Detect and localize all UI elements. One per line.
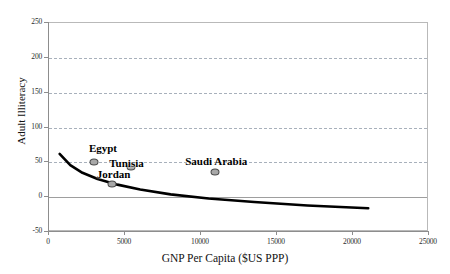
y-axis-title: Adult Illiteracy [15, 51, 27, 171]
x-tick-mark [48, 231, 49, 235]
x-tick-label-15000: 15000 [251, 238, 301, 246]
y-tick-mark [44, 92, 48, 93]
x-tick-mark [352, 231, 353, 235]
y-tick-label-200: 200 [6, 53, 42, 61]
x-tick-label-0: 0 [23, 238, 73, 246]
y-tick-mark [44, 22, 48, 23]
y-tick-label-150: 150 [6, 88, 42, 96]
y-tick-label-250: 250 [6, 18, 42, 26]
x-tick-label-25000: 25000 [403, 238, 450, 246]
y-tick-label-0: 0 [6, 192, 42, 200]
x-tick-mark [200, 231, 201, 235]
y-tick-label--50: -50 [6, 227, 42, 235]
y-tick-mark [44, 196, 48, 197]
y-axis [48, 22, 49, 231]
y-tick-mark [44, 57, 48, 58]
x-axis-title: GNP Per Capita ($US PPP) [0, 252, 450, 264]
x-tick-mark [124, 231, 125, 235]
x-tick-mark [276, 231, 277, 235]
chart-figure: Adult Illiteracy EgyptTunisiaJordanSaudi… [0, 0, 450, 274]
plot-area: EgyptTunisiaJordanSaudi Arabia [48, 22, 428, 231]
trendline [49, 23, 429, 232]
y-tick-mark [44, 127, 48, 128]
x-axis [48, 231, 428, 232]
y-tick-label-100: 100 [6, 123, 42, 131]
y-tick-mark [44, 161, 48, 162]
y-tick-label-50: 50 [6, 157, 42, 165]
x-tick-label-10000: 10000 [175, 238, 225, 246]
x-tick-label-20000: 20000 [327, 238, 377, 246]
x-tick-mark [428, 231, 429, 235]
x-tick-label-5000: 5000 [99, 238, 149, 246]
